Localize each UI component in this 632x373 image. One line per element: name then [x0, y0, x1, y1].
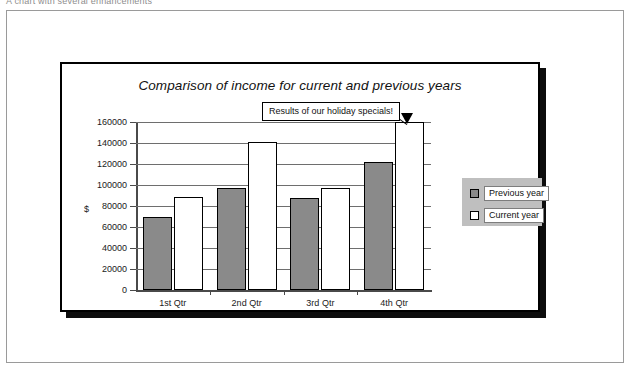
bar-2nd-qtr-previous-year[interactable] [217, 188, 246, 290]
y-axis-tick-label: 160000 [97, 117, 127, 127]
y-axis-tick [130, 290, 136, 291]
chart-title: Comparison of income for current and pre… [62, 78, 538, 93]
gridline [136, 122, 431, 123]
y-axis-tick [130, 122, 136, 123]
bar-2nd-qtr-current-year[interactable] [248, 142, 277, 290]
x-axis-label-2nd-qtr: 2nd Qtr [232, 298, 262, 308]
y-axis-tick [130, 248, 136, 249]
legend-label: Current year [484, 208, 544, 223]
x-axis-label-4th-qtr: 4th Qtr [380, 298, 408, 308]
bar-4th-qtr-current-year[interactable] [395, 122, 424, 290]
y-axis-tick-label: 80000 [102, 201, 127, 211]
y-axis-tick [130, 269, 136, 270]
figure-caption: A chart with several enhancements [6, 0, 152, 6]
y-axis-title: $ [84, 204, 89, 214]
legend-label: Previous year [484, 186, 549, 201]
y-axis-tick-label: 20000 [102, 264, 127, 274]
legend-swatch-icon [470, 211, 479, 220]
annotation-arrowhead [401, 113, 413, 124]
bar-1st-qtr-current-year[interactable] [174, 197, 203, 290]
y-axis-tick-label: 0 [122, 285, 127, 295]
y-axis-tick-label: 40000 [102, 243, 127, 253]
y-axis-tick [130, 164, 136, 165]
x-axis-tick [210, 290, 211, 295]
y-axis-tick [130, 227, 136, 228]
y-axis-tick-label: 100000 [97, 180, 127, 190]
bar-3rd-qtr-previous-year[interactable] [290, 198, 319, 290]
x-axis-label-1st-qtr: 1st Qtr [159, 298, 186, 308]
annotation-callout-text: Results of our holiday specials! [269, 106, 393, 116]
y-axis-tick-label: 120000 [97, 159, 127, 169]
annotation-callout[interactable]: Results of our holiday specials! [262, 102, 400, 121]
bar-3rd-qtr-current-year[interactable] [321, 188, 350, 290]
plot-area: 1600001400001200001000008000060000400002… [136, 122, 431, 290]
bar-4th-qtr-previous-year[interactable] [364, 162, 393, 290]
y-axis-tick-label: 140000 [97, 138, 127, 148]
y-axis-tick [130, 185, 136, 186]
y-axis-tick [130, 206, 136, 207]
x-axis-tick [284, 290, 285, 295]
legend-item-current-year[interactable]: Current year [470, 208, 544, 223]
gridline [136, 143, 431, 144]
x-axis-label-3rd-qtr: 3rd Qtr [306, 298, 334, 308]
screenshot-page: A chart with several enhancements Compar… [0, 0, 632, 373]
y-axis-tick-label: 60000 [102, 222, 127, 232]
legend-swatch-icon [470, 189, 479, 198]
chart-object[interactable]: Comparison of income for current and pre… [60, 62, 540, 312]
legend-item-previous-year[interactable]: Previous year [470, 186, 549, 201]
y-axis-tick [130, 143, 136, 144]
x-axis-tick [357, 290, 358, 295]
bar-1st-qtr-previous-year[interactable] [143, 217, 172, 291]
legend[interactable]: Previous yearCurrent year [462, 178, 542, 226]
